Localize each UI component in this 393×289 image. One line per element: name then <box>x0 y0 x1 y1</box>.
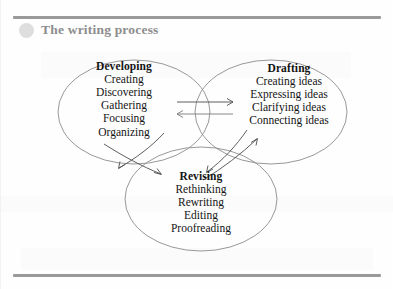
group-revising: Revising Rethinking Rewriting Editing Pr… <box>131 170 271 236</box>
group-item: Clarifying ideas <box>219 101 359 114</box>
group-item: Creating <box>64 73 184 86</box>
group-item: Editing <box>131 209 271 222</box>
group-heading-drafting: Drafting <box>219 62 359 75</box>
group-heading-revising: Revising <box>131 170 271 183</box>
page-title: The writing process <box>41 22 159 38</box>
header-divider <box>13 16 381 19</box>
venn-diagram: Developing Creating Discovering Gatherin… <box>1 44 393 266</box>
group-item: Rethinking <box>131 183 271 196</box>
group-item: Discovering <box>64 86 184 99</box>
group-heading-developing: Developing <box>64 60 184 73</box>
connector-developing-revising <box>104 133 164 175</box>
group-item: Proofreading <box>131 222 271 235</box>
group-developing: Developing Creating Discovering Gatherin… <box>64 60 184 139</box>
group-item: Creating ideas <box>219 75 359 88</box>
footer-divider <box>13 274 381 277</box>
group-item: Organizing <box>64 126 184 139</box>
group-item: Gathering <box>64 99 184 112</box>
group-item: Focusing <box>64 112 184 125</box>
group-item: Expressing ideas <box>219 88 359 101</box>
group-item: Connecting ideas <box>219 114 359 127</box>
slide-title-row: The writing process <box>19 22 159 38</box>
circle-bullet-icon <box>19 23 34 38</box>
group-drafting: Drafting Creating ideas Expressing ideas… <box>219 62 359 128</box>
group-item: Rewriting <box>131 196 271 209</box>
